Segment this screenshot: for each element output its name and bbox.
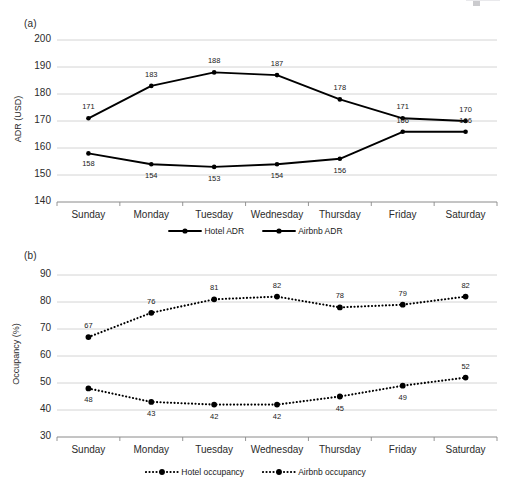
legend-item[interactable]: Airbnb occupancy — [262, 467, 366, 477]
data-point-label: 78 — [325, 291, 355, 300]
y-axis-tick-label: 170 — [17, 114, 51, 125]
data-point-label: 52 — [451, 362, 481, 371]
x-axis-tick-label: Saturday — [429, 444, 503, 455]
legend-item[interactable]: Hotel occupancy — [145, 467, 244, 477]
data-point-label: 178 — [325, 83, 355, 92]
legend-line-marker-icon — [262, 467, 296, 477]
y-axis-tick-label: 90 — [17, 268, 51, 279]
legend-line-marker-icon — [262, 226, 296, 236]
data-point-label: 82 — [451, 281, 481, 290]
data-point-label: 158 — [73, 159, 103, 168]
data-point-label: 166 — [388, 116, 418, 125]
data-point-label: 67 — [73, 321, 103, 330]
data-point-label: 81 — [199, 283, 229, 292]
y-axis-tick-label: 60 — [17, 349, 51, 360]
y-axis-tick-label: 40 — [17, 403, 51, 414]
legend-label: Hotel ADR — [204, 226, 244, 236]
y-axis-tick-label: 180 — [17, 87, 51, 98]
data-point-label: 154 — [136, 171, 166, 180]
y-axis-tick-label: 200 — [17, 33, 51, 44]
data-point-label: 43 — [136, 409, 166, 418]
y-axis-tick-label: 150 — [17, 168, 51, 179]
data-point-label: 153 — [199, 174, 229, 183]
data-point-label: 82 — [262, 281, 292, 290]
data-point-label: 171 — [73, 102, 103, 111]
data-point-label: 171 — [388, 102, 418, 111]
data-point-label: 156 — [325, 166, 355, 175]
legend-line-marker-icon — [145, 467, 179, 477]
y-axis-tick-label: 160 — [17, 141, 51, 152]
panel-a: (a) ADR (USD) 200190180170160150140Sunda… — [0, 0, 511, 245]
figure-root: (a) ADR (USD) 200190180170160150140Sunda… — [0, 0, 511, 484]
y-axis-tick-label: 50 — [17, 376, 51, 387]
data-point-label: 42 — [262, 412, 292, 421]
legend: Hotel occupancyAirbnb occupancy — [0, 467, 511, 477]
legend-label: Airbnb occupancy — [298, 467, 366, 477]
legend-label: Hotel occupancy — [181, 467, 244, 477]
data-point-label: 183 — [136, 70, 166, 79]
legend-item[interactable]: Hotel ADR — [168, 226, 244, 236]
data-point-label: 48 — [73, 395, 103, 404]
data-point-label: 170 — [451, 105, 481, 114]
legend-line-marker-icon — [168, 226, 202, 236]
data-point-label: 45 — [325, 404, 355, 413]
data-point-label: 42 — [199, 412, 229, 421]
y-axis-tick-label: 80 — [17, 295, 51, 306]
legend-item[interactable]: Airbnb ADR — [262, 226, 342, 236]
y-axis-tick-label: 70 — [17, 322, 51, 333]
data-point-label: 166 — [451, 116, 481, 125]
y-axis-tick-label: 140 — [17, 195, 51, 206]
y-axis-tick-label: 190 — [17, 60, 51, 71]
data-point-label: 79 — [388, 289, 418, 298]
data-point-label: 76 — [136, 297, 166, 306]
panel-b: (b) Occupancy (%) 90807060504030SundayMo… — [0, 245, 511, 484]
data-point-label: 188 — [199, 56, 229, 65]
legend: Hotel ADRAirbnb ADR — [0, 226, 511, 236]
data-point-label: 154 — [262, 171, 292, 180]
legend-label: Airbnb ADR — [298, 226, 342, 236]
y-axis-tick-label: 30 — [17, 430, 51, 441]
data-point-label: 49 — [388, 393, 418, 402]
x-axis-tick-label: Saturday — [429, 209, 503, 220]
data-point-label: 187 — [262, 59, 292, 68]
